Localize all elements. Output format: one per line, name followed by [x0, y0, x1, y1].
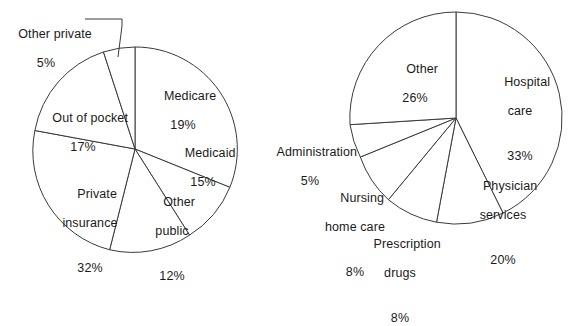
label-administration: Administration 5% [262, 130, 358, 219]
label-other-public: Other public 12% [139, 180, 205, 313]
label-private-insurance: Private insurance 32% [42, 172, 138, 305]
label-physician-services: Physician services 20% [464, 164, 542, 297]
label-other-private: Other private 5% [4, 12, 88, 101]
label-other: Other 26% [380, 47, 450, 136]
label-out-of-pocket: Out of pocket 17% [33, 96, 133, 185]
